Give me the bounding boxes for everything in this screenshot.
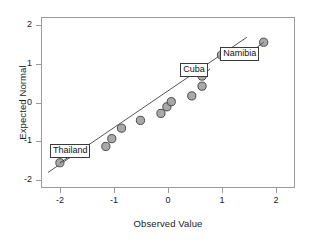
data-point-marker [198,82,206,90]
x-tick-mark [276,188,277,193]
qq-plot-figure: -2-1012210-1-2 ThailandCubaNamibia Expec… [0,0,309,242]
annotation-label-thailand[interactable]: Thailand [50,144,91,158]
y-tick-mark [36,25,41,26]
x-tick-label: -2 [47,195,73,205]
x-tick-label: 2 [263,195,289,205]
data-point-marker [188,92,196,100]
x-tick-mark [168,188,169,193]
x-tick-mark [114,188,115,193]
y-tick-mark [36,103,41,104]
data-point-marker [117,124,125,132]
x-tick-label: 0 [155,195,181,205]
x-tick-mark [60,188,61,193]
chart-drawing-layer [0,0,309,242]
y-tick-mark [36,180,41,181]
data-point-marker [108,135,116,143]
data-point-marker [167,98,175,106]
x-tick-label: 1 [209,195,235,205]
x-tick-mark [222,188,223,193]
y-tick-mark [36,141,41,142]
annotation-label-cuba[interactable]: Cuba [180,63,208,77]
y-axis-title: Expected Normal [17,17,28,188]
x-axis-title: Observed Value [41,218,295,229]
annotation-label-namibia[interactable]: Namibia [220,47,259,61]
data-point-marker [157,109,165,117]
x-tick-label: -1 [101,195,127,205]
data-point-marker [102,142,110,150]
y-tick-mark [36,64,41,65]
data-point-marker [136,116,144,124]
